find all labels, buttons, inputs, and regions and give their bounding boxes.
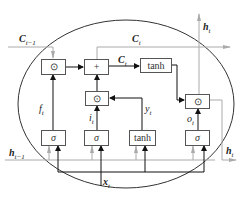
- label-c-t-top: Ct: [132, 34, 141, 47]
- output-sigma-box: σ: [185, 130, 210, 146]
- label-y-t: yt: [145, 104, 151, 117]
- forget-multiply-box: ⊙: [41, 59, 66, 75]
- forget-sigma-box: σ: [41, 130, 66, 146]
- label-i-t: it: [89, 113, 94, 126]
- hadamard-icon: ⊙: [194, 97, 202, 107]
- label-f-t: ft: [39, 104, 44, 117]
- hadamard-icon: ⊙: [93, 94, 101, 104]
- label-x-t: xt: [103, 177, 110, 190]
- tanh-label: tanh: [134, 133, 151, 143]
- label-o-t: ot: [187, 114, 194, 127]
- sigma-icon: σ: [195, 133, 200, 143]
- cell-tanh-box: tanh: [140, 58, 172, 73]
- output-multiply-box: ⊙: [185, 94, 210, 109]
- candidate-tanh-box: tanh: [129, 130, 156, 146]
- label-h-t-right: ht: [226, 146, 234, 159]
- sigma-icon: σ: [51, 133, 56, 143]
- hadamard-icon: ⊙: [50, 62, 58, 72]
- sigma-icon: σ: [94, 133, 99, 143]
- label-h-t-top: ht: [203, 22, 211, 35]
- input-multiply-box: ⊙: [85, 91, 109, 106]
- lstm-diagram: ⊙ + tanh ⊙ ⊙ σ σ tanh σ Ct−1 Ct Ct ht ht…: [0, 0, 243, 201]
- tanh-label: tanh: [147, 61, 164, 71]
- input-sigma-box: σ: [84, 130, 109, 146]
- plus-icon: +: [94, 62, 100, 72]
- label-h-prev: ht−1: [9, 148, 25, 161]
- label-c-prev: Ct−1: [19, 34, 36, 47]
- label-c-t-mid: Ct: [118, 55, 127, 68]
- cell-add-box: +: [84, 59, 109, 75]
